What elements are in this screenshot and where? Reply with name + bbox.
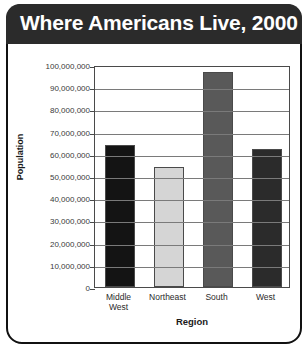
y-axis-tick-mark <box>90 89 95 90</box>
x-axis-tick-label: Middle West <box>106 292 131 312</box>
y-axis-tick-label: 40,000,000 <box>20 195 90 204</box>
gridline <box>95 111 289 112</box>
gridline <box>95 134 289 135</box>
y-axis-tick-mark <box>90 245 95 246</box>
y-axis-tick-mark <box>90 67 95 68</box>
x-axis-tick-labels: Middle WestNortheastSouthWest <box>94 292 290 318</box>
y-axis-tick-mark <box>90 222 95 223</box>
x-axis-title: Region <box>94 316 290 327</box>
bar-middle-west <box>105 145 135 287</box>
gridline <box>95 89 289 90</box>
y-axis-tick-mark <box>90 156 95 157</box>
gridline <box>95 200 289 201</box>
y-axis-tick-mark <box>90 111 95 112</box>
gridline <box>95 178 289 179</box>
y-axis-tick-labels: 010,000,00020,000,00030,000,00040,000,00… <box>20 60 90 295</box>
y-axis-tick-mark <box>90 178 95 179</box>
y-axis-tick-mark <box>90 134 95 135</box>
gridline <box>95 156 289 157</box>
gridline <box>95 267 289 268</box>
y-axis-tick-mark <box>90 200 95 201</box>
bar-south <box>203 72 233 287</box>
x-axis-tick-label: Northeast <box>149 292 186 302</box>
x-axis-tick-label: South <box>205 292 227 302</box>
gridline <box>95 245 289 246</box>
plot-area <box>94 66 290 288</box>
y-axis-tick-label: 90,000,000 <box>20 84 90 93</box>
y-axis-tick-label: 80,000,000 <box>20 106 90 115</box>
y-axis-tick-label: 100,000,000 <box>20 62 90 71</box>
x-axis-tick-label: West <box>256 292 275 302</box>
y-axis-tick-label: 70,000,000 <box>20 128 90 137</box>
chart-title: Where Americans Live, 2000 <box>20 11 298 35</box>
chart-title-band: Where Americans Live, 2000 <box>6 4 302 44</box>
y-axis-tick-label: 20,000,000 <box>20 239 90 248</box>
y-axis-tick-label: 50,000,000 <box>20 173 90 182</box>
y-axis-tick-mark <box>90 289 95 290</box>
y-axis-tick-mark <box>90 267 95 268</box>
bar-northeast <box>154 167 184 287</box>
bar-series <box>95 67 289 287</box>
y-axis-tick-label: 10,000,000 <box>20 261 90 270</box>
y-axis-tick-label: 0 <box>20 284 90 293</box>
gridline <box>95 222 289 223</box>
y-axis-tick-label: 30,000,000 <box>20 217 90 226</box>
y-axis-tick-label: 60,000,000 <box>20 150 90 159</box>
chart-figure: Where Americans Live, 2000 Population 01… <box>0 0 308 352</box>
